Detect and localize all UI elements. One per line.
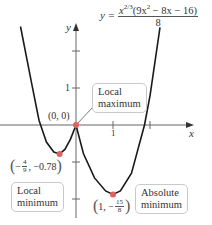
paren-close: ) bbox=[57, 157, 62, 175]
fraction-15-8: 158 bbox=[115, 199, 124, 214]
coord-first: 1, − bbox=[98, 201, 114, 212]
y-tick-label-1: 1 bbox=[65, 82, 70, 93]
eq-tail: − 8x − 16) bbox=[150, 5, 197, 16]
local-max-line1: Local bbox=[98, 86, 141, 98]
equation-lhs: y = bbox=[100, 9, 115, 21]
abs-min-line1: Absolute bbox=[141, 187, 182, 199]
y-axis-arrow-icon bbox=[73, 23, 79, 31]
x-tick-label-1: 1 bbox=[111, 128, 116, 139]
absolute-min-coord-label: ( 1, − 158 ) bbox=[93, 197, 130, 215]
local-min-line2: minimum bbox=[17, 197, 58, 209]
x-axis-label: x bbox=[189, 128, 194, 139]
equation-denominator: 8 bbox=[155, 17, 160, 28]
frac-den: 8 bbox=[118, 207, 122, 214]
local-minimum-callout: Local minimum bbox=[11, 182, 64, 212]
equation-label: y = x2/3(9x2 − 8x − 16) 8 bbox=[100, 3, 198, 28]
paren-close: ) bbox=[125, 197, 130, 215]
local-min-coord-label: ( − 49 , −0.78 ) bbox=[10, 157, 62, 175]
y-axis-label: y bbox=[66, 22, 71, 33]
abs-min-line2: minimum bbox=[141, 199, 182, 211]
local-min-line1: Local bbox=[17, 185, 58, 197]
eq-exp: 2/3 bbox=[124, 3, 133, 11]
local-maximum-callout: Local maximum bbox=[92, 83, 147, 113]
local-max-point bbox=[73, 122, 79, 128]
frac-den: 9 bbox=[23, 167, 27, 174]
equation-numerator: x2/3(9x2 − 8x − 16) bbox=[118, 3, 198, 17]
equation-fraction: x2/3(9x2 − 8x − 16) 8 bbox=[118, 3, 198, 28]
minus-sign: − bbox=[15, 161, 21, 172]
coord-rest: , −0.78 bbox=[28, 161, 56, 172]
local-max-pointer bbox=[78, 108, 92, 123]
origin-point-label: (0, 0) bbox=[48, 110, 70, 121]
absolute-minimum-callout: Absolute minimum bbox=[135, 184, 188, 214]
local-max-line2: maximum bbox=[98, 98, 141, 110]
eq-rest: (9x bbox=[133, 5, 147, 16]
fraction-4-9: 49 bbox=[22, 159, 28, 174]
